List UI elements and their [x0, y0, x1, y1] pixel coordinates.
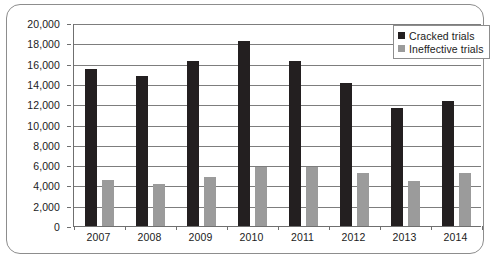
bar-cracked-2007[interactable]: [85, 69, 97, 226]
bar-cracked-2008[interactable]: [136, 76, 148, 226]
bar-cracked-2012[interactable]: [340, 83, 352, 226]
legend-item-ineffective[interactable]: Ineffective trials: [398, 42, 484, 55]
y-tick-label: 0: [54, 221, 60, 233]
x-tick-label-2011: 2011: [291, 231, 314, 243]
x-tick-mark: [431, 226, 432, 230]
x-tick-label-2007: 2007: [87, 231, 111, 243]
bar-cracked-2011[interactable]: [289, 61, 301, 226]
y-tick-mark: [67, 146, 71, 147]
x-tick-label-2008: 2008: [138, 231, 162, 243]
x-tick-label-2013: 2013: [393, 231, 417, 243]
y-tick-mark: [67, 85, 71, 86]
y-tick-label: 14,000: [27, 79, 60, 91]
y-tick-label: 18,000: [27, 38, 60, 50]
bar-ineffective-2010[interactable]: [255, 167, 267, 226]
y-tick-label: 4,000: [33, 180, 60, 192]
bar-ineffective-2011[interactable]: [306, 167, 318, 226]
y-tick-label: 2,000: [33, 201, 60, 213]
y-tick-mark: [67, 65, 71, 66]
bar-ineffective-2014[interactable]: [459, 173, 471, 226]
bar-ineffective-2007[interactable]: [102, 180, 114, 226]
legend-label: Cracked trials: [409, 30, 475, 42]
bar-ineffective-2009[interactable]: [204, 177, 216, 226]
y-axis: 02,0004,0006,0008,00010,00012,00014,0001…: [7, 24, 67, 227]
x-tick-mark: [329, 226, 330, 230]
x-tick-mark: [176, 226, 177, 230]
bar-group: [187, 24, 216, 226]
x-tick-label-2014: 2014: [444, 231, 468, 243]
y-tick-mark: [67, 126, 71, 127]
bar-cracked-2009[interactable]: [187, 61, 199, 226]
x-tick-mark: [380, 226, 381, 230]
y-tick-mark: [67, 105, 71, 106]
x-tick-label-2012: 2012: [342, 231, 366, 243]
bar-cracked-2013[interactable]: [391, 108, 403, 226]
x-axis: 20072008200920102011201220132014: [73, 231, 481, 249]
x-tick-mark: [227, 226, 228, 230]
bar-ineffective-2012[interactable]: [357, 173, 369, 226]
y-tick-label: 12,000: [27, 99, 60, 111]
y-tick-mark: [67, 166, 71, 167]
x-tick-label-2009: 2009: [189, 231, 213, 243]
x-tick-mark: [74, 226, 75, 230]
y-tick-label: 20,000: [27, 18, 60, 30]
chart-container: 02,0004,0006,0008,00010,00012,00014,0001…: [6, 4, 484, 254]
bar-cracked-2014[interactable]: [442, 101, 454, 226]
x-tick-mark: [482, 226, 483, 230]
bar-group: [340, 24, 369, 226]
bar-group: [238, 24, 267, 226]
y-tick-mark: [67, 227, 71, 228]
bar-cracked-2010[interactable]: [238, 41, 250, 226]
x-tick-label-2010: 2010: [240, 231, 264, 243]
y-tick-mark: [67, 207, 71, 208]
legend-item-cracked[interactable]: Cracked trials: [398, 29, 484, 42]
chart-legend: Cracked trialsIneffective trials: [393, 25, 490, 59]
bar-ineffective-2008[interactable]: [153, 184, 165, 226]
legend-swatch-icon: [398, 32, 405, 39]
bar-ineffective-2013[interactable]: [408, 181, 420, 226]
y-tick-label: 8,000: [33, 140, 60, 152]
y-tick-label: 6,000: [33, 160, 60, 172]
x-tick-mark: [125, 226, 126, 230]
y-tick-mark: [67, 44, 71, 45]
legend-label: Ineffective trials: [409, 43, 484, 55]
y-tick-label: 16,000: [27, 59, 60, 71]
bar-group: [136, 24, 165, 226]
x-tick-mark: [278, 226, 279, 230]
bar-group: [289, 24, 318, 226]
y-tick-mark: [67, 24, 71, 25]
bar-group: [85, 24, 114, 226]
y-tick-label: 10,000: [27, 120, 60, 132]
y-tick-mark: [67, 186, 71, 187]
legend-swatch-icon: [398, 45, 405, 52]
